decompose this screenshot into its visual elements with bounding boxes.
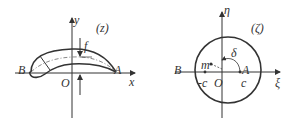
zeta-plane [175,12,280,118]
y-axis-label: y [74,14,79,26]
delta-angle-arc [222,58,240,71]
delta-label: δ [231,47,237,59]
point-b-label: B [18,64,25,76]
x-axis-label: x [129,76,134,88]
origin-label: O [61,77,70,89]
center-m-label: m [201,59,210,71]
eta-axis-label: η [224,4,230,16]
point-c [239,71,242,74]
origin-label-zeta: O [214,77,223,89]
thickness-line [40,56,50,70]
point-a-label: A [114,64,121,76]
airfoil-lower-surface [30,64,116,78]
pos-c-label: c [241,77,246,89]
z-plane-label: (z) [96,22,109,34]
zeta-plane-label: (ζ) [251,22,264,34]
xi-axis-label: ξ [275,77,280,89]
neg-c-label: -c [198,77,207,89]
m-to-origin-line [211,64,222,69]
point-b-label-zeta: B [174,64,181,76]
camber-f-label: f [84,40,87,52]
point-a-label-zeta: A [242,64,249,76]
